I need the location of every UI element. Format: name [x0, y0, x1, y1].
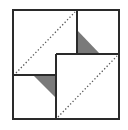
background: [0, 0, 128, 130]
folded-square-diagram: [0, 0, 128, 130]
